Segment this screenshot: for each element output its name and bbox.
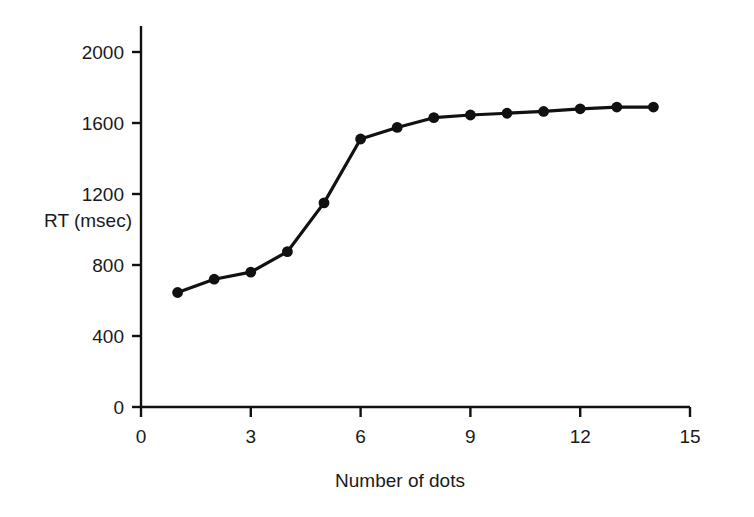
data-point — [245, 267, 256, 278]
data-point — [428, 112, 439, 123]
data-point — [282, 246, 293, 257]
y-tick-label: 1600 — [82, 113, 124, 134]
y-tick-label: 800 — [92, 255, 124, 276]
data-point — [172, 287, 183, 298]
y-tick-label: 400 — [92, 326, 124, 347]
x-axis-title: Number of dots — [335, 470, 465, 491]
data-point — [611, 102, 622, 113]
x-tick-label: 3 — [246, 426, 257, 447]
chart-figure: 0400800120016002000 03691215 RT (msec) N… — [0, 0, 754, 517]
y-tick-label: 1200 — [82, 184, 124, 205]
x-tick-label: 9 — [465, 426, 476, 447]
data-point — [465, 110, 476, 121]
line-chart: 0400800120016002000 03691215 RT (msec) N… — [0, 0, 754, 517]
y-axis-title: RT (msec) — [44, 210, 132, 231]
data-point — [209, 274, 220, 285]
y-tick-label: 0 — [113, 397, 124, 418]
data-point — [538, 106, 549, 117]
x-tick-label: 6 — [355, 426, 366, 447]
x-tick-label: 0 — [136, 426, 147, 447]
data-point — [355, 134, 366, 145]
data-point — [502, 108, 513, 119]
data-point — [392, 122, 403, 133]
data-point — [319, 197, 330, 208]
x-tick-label: 12 — [570, 426, 591, 447]
x-tick-label: 15 — [679, 426, 700, 447]
data-point — [648, 102, 659, 113]
y-tick-label: 2000 — [82, 42, 124, 63]
data-point — [575, 103, 586, 114]
